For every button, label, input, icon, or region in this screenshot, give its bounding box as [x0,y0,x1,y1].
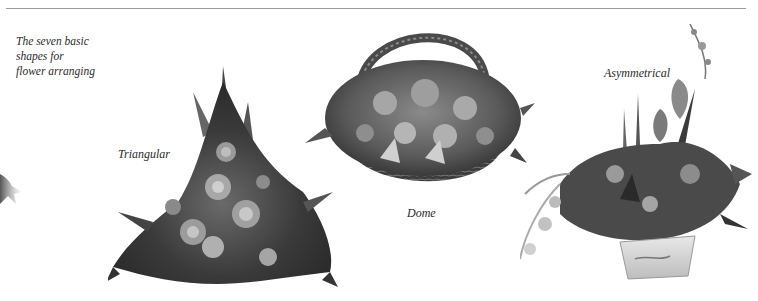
top-rule-divider [6,8,746,9]
figure-caption-dome: Dome [407,206,436,221]
figure-caption-asymmetrical: Asymmetrical [604,66,670,81]
page-edge-fragment-image [0,170,22,210]
cutoff-header-text: · · · · · · · · · · · · [110,0,267,5]
asymmetrical-arrangement-photo [520,24,755,284]
triangular-arrangement-photo [108,62,338,292]
book-page: · · · · · · · · · · · · The seven basic … [0,0,758,301]
figure-caption-triangular: Triangular [118,147,170,162]
dome-arrangement-photo [305,18,535,203]
intro-caption-line: The seven basic [16,34,126,49]
